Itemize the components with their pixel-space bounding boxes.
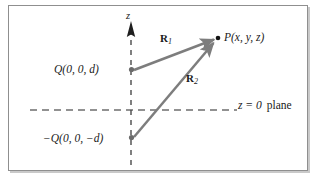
vector-r2-subscript: 2: [194, 77, 198, 86]
vector-r1-symbol: R: [160, 32, 168, 44]
z-axis-label: z: [126, 11, 130, 22]
positive-charge-label: Q(0, 0, d): [54, 64, 99, 76]
charge-negative-dot: [129, 135, 134, 140]
z-zero-plane-label: z = 0plane: [238, 100, 292, 112]
vector-r1-subscript: 1: [168, 37, 172, 46]
field-point-label: P(x, y, z): [224, 32, 264, 44]
vector-r2-arrow: [134, 43, 214, 137]
vector-r1-label: R1: [160, 33, 172, 46]
figure-root: P(x, y, z) Q(0, 0, d) −Q(0, 0, −d) R1 R2…: [0, 0, 328, 177]
vector-r2-label: R2: [186, 73, 198, 86]
plane-equation-text: z = 0: [238, 99, 262, 111]
charge-positive-dot: [129, 67, 134, 72]
field-point-dot: [216, 36, 221, 41]
negative-charge-label: −Q(0, 0, −d): [43, 133, 103, 145]
figure-drawing-canvas: [0, 0, 328, 177]
z-axis-arrowhead-icon: [127, 21, 135, 37]
plane-word-text: plane: [262, 99, 292, 111]
vector-r2-symbol: R: [186, 72, 194, 84]
